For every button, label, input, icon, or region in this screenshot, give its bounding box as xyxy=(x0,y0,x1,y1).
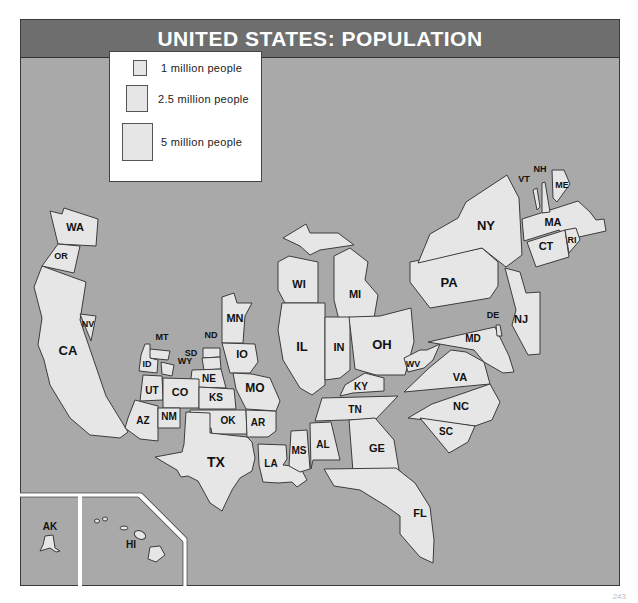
state-label-ri: RI xyxy=(568,235,577,245)
state-label-va: VA xyxy=(453,371,468,383)
state-label-or: OR xyxy=(54,251,68,261)
state-nh xyxy=(542,182,550,213)
legend-label-2-5m: 2.5 million people xyxy=(158,93,249,105)
state-mi-upper xyxy=(283,224,354,255)
state-label-il: IL xyxy=(296,339,308,354)
state-label-nj: NJ xyxy=(514,313,528,325)
state-label-mn: MN xyxy=(226,312,243,324)
state-wy xyxy=(161,362,174,376)
state-hi-niihau xyxy=(95,519,100,523)
cartogram-map: WAORCANVMTIDWYNDSDMNIONEUTCOKSMOAZNMOKAR… xyxy=(0,0,638,603)
state-label-tx: TX xyxy=(207,454,226,470)
state-label-oh: OH xyxy=(372,337,392,352)
state-label-pa: PA xyxy=(440,275,458,290)
state-label-mt: MT xyxy=(156,332,169,342)
legend-row-1m: 1 million people xyxy=(130,60,242,76)
state-hi-big-island xyxy=(148,546,165,562)
state-label-hi: HI xyxy=(126,539,136,550)
state-ca xyxy=(34,266,128,438)
state-label-wv: WV xyxy=(406,359,421,369)
state-sd xyxy=(202,357,221,370)
state-label-sd: SD xyxy=(185,348,198,358)
state-label-ny: NY xyxy=(477,218,495,233)
state-de xyxy=(496,325,502,336)
state-hi-kauai xyxy=(103,517,108,521)
legend-label-1m: 1 million people xyxy=(161,62,242,74)
state-nd xyxy=(203,348,220,358)
legend-row-2-5m: 2.5 million people xyxy=(126,85,249,112)
state-label-nc: NC xyxy=(453,400,469,412)
state-label-tn: TN xyxy=(348,404,361,415)
legend-row-5m: 5 million people xyxy=(122,123,242,161)
state-label-nh: NH xyxy=(534,164,547,174)
state-label-ar: AR xyxy=(251,417,266,428)
legend: 1 million people 2.5 million people 5 mi… xyxy=(109,51,262,182)
legend-swatch-5m xyxy=(122,123,153,161)
legend-label-5m: 5 million people xyxy=(161,136,242,148)
state-label-in: IN xyxy=(334,341,345,353)
state-label-wi: WI xyxy=(292,278,305,290)
state-label-la: LA xyxy=(264,458,277,469)
state-label-io: IO xyxy=(236,348,248,360)
legend-swatch-1m xyxy=(133,60,147,76)
state-label-me: ME xyxy=(555,180,569,190)
state-label-ak: AK xyxy=(43,521,58,532)
state-label-nm: NM xyxy=(161,411,177,422)
state-label-ms: MS xyxy=(292,445,307,456)
state-mi xyxy=(334,248,378,320)
state-label-ge: GE xyxy=(369,442,385,454)
state-label-md: MD xyxy=(465,333,481,344)
state-label-co: CO xyxy=(172,386,189,398)
state-hi-oahu xyxy=(120,526,128,530)
state-label-mo: MO xyxy=(245,381,264,395)
state-label-ky: KY xyxy=(354,381,368,392)
state-vt xyxy=(533,188,540,210)
state-label-ok: OK xyxy=(221,415,237,426)
state-label-ut: UT xyxy=(145,385,158,396)
state-label-ct: CT xyxy=(539,240,554,252)
legend-swatch-2-5m xyxy=(126,85,148,112)
state-label-de: DE xyxy=(487,310,500,320)
state-label-ne: NE xyxy=(202,373,216,384)
state-label-ma: MA xyxy=(544,216,561,228)
state-label-fl: FL xyxy=(413,507,427,519)
state-label-mi: MI xyxy=(349,288,361,300)
state-label-sc: SC xyxy=(439,426,453,437)
page-mark: 243 xyxy=(613,592,626,601)
state-label-id: ID xyxy=(143,359,153,369)
state-label-nd: ND xyxy=(205,330,218,340)
state-label-vt: VT xyxy=(518,174,530,184)
state-label-nv: NV xyxy=(82,319,95,329)
state-label-az: AZ xyxy=(136,415,149,426)
state-label-wa: WA xyxy=(66,221,84,233)
state-label-ks: KS xyxy=(209,392,223,403)
state-label-al: AL xyxy=(316,439,329,450)
state-nj xyxy=(505,268,540,355)
state-ak xyxy=(40,535,60,552)
state-label-ca: CA xyxy=(59,343,78,358)
